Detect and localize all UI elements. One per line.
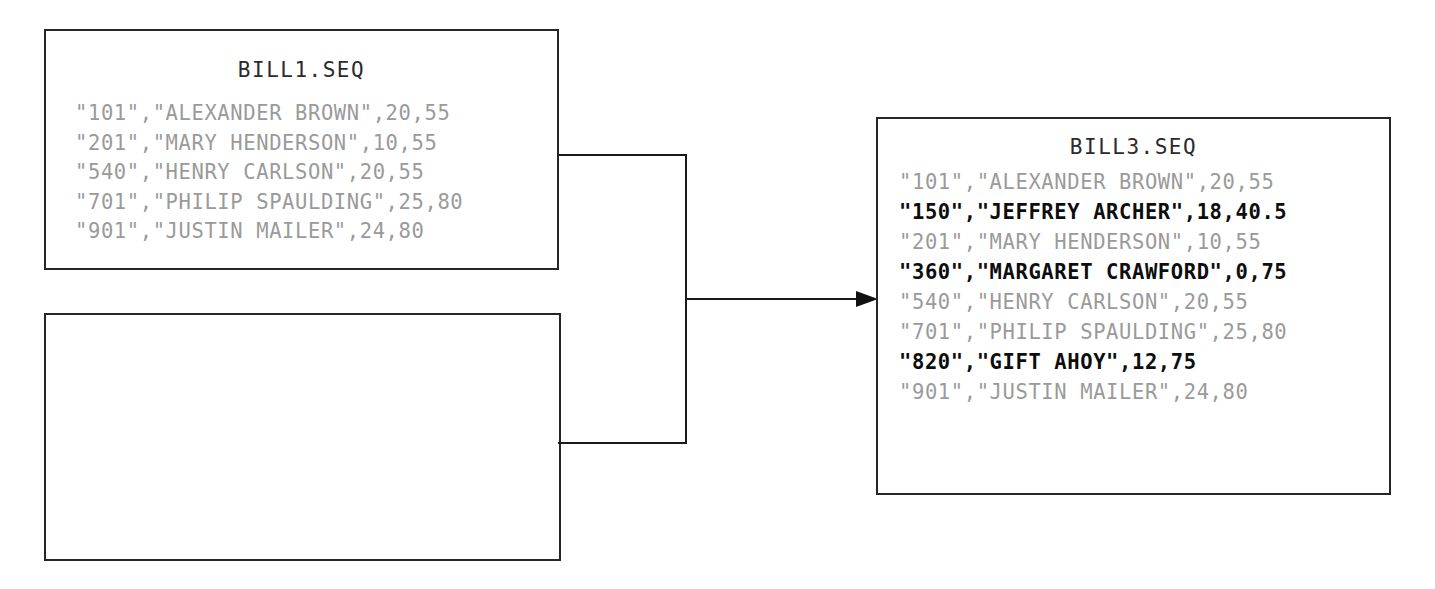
merge-arrow-head-icon [856, 291, 878, 307]
connector-line-top [558, 154, 687, 156]
record-list-bill3: "101","ALEXANDER BROWN",20,55"150","JEFF… [878, 167, 1410, 407]
file-title-bill1: BILL1.SEQ [46, 58, 707, 82]
connector-line-bottom [558, 442, 687, 444]
record-line: "101","ALEXANDER BROWN",20,55 [899, 167, 1410, 197]
record-line: "150","JEFFREY ARCHER",18,40.5 [899, 197, 1410, 227]
merge-arrow-shaft [685, 298, 863, 300]
record-line: "701","PHILIP SPAULDING",25,80 [75, 188, 586, 218]
record-list-bill1: "101","ALEXANDER BROWN",20,55"201","MARY… [46, 99, 586, 247]
record-line: "540","HENRY CARLSON",20,55 [899, 287, 1410, 317]
record-line: "701","PHILIP SPAULDING",25,80 [899, 317, 1410, 347]
record-line: "201","MARY HENDERSON",10,55 [75, 129, 586, 159]
record-line: "901","JUSTIN MAILER",24,80 [899, 377, 1410, 407]
record-line: "101","ALEXANDER BROWN",20,55 [75, 99, 586, 129]
file-box-bill1: BILL1.SEQ "101","ALEXANDER BROWN",20,55"… [44, 29, 559, 270]
record-line: "540","HENRY CARLSON",20,55 [75, 158, 586, 188]
file-box-empty [44, 313, 561, 561]
file-box-bill3: BILL3.SEQ "101","ALEXANDER BROWN",20,55"… [876, 117, 1391, 495]
record-line: "820","GIFT AHOY",12,75 [899, 347, 1410, 377]
diagram-canvas: BILL1.SEQ "101","ALEXANDER BROWN",20,55"… [0, 0, 1435, 589]
record-line: "360","MARGARET CRAWFORD",0,75 [899, 257, 1410, 287]
record-line: "201","MARY HENDERSON",10,55 [899, 227, 1410, 257]
file-title-bill3: BILL3.SEQ [878, 135, 1389, 159]
record-line: "901","JUSTIN MAILER",24,80 [75, 217, 586, 247]
